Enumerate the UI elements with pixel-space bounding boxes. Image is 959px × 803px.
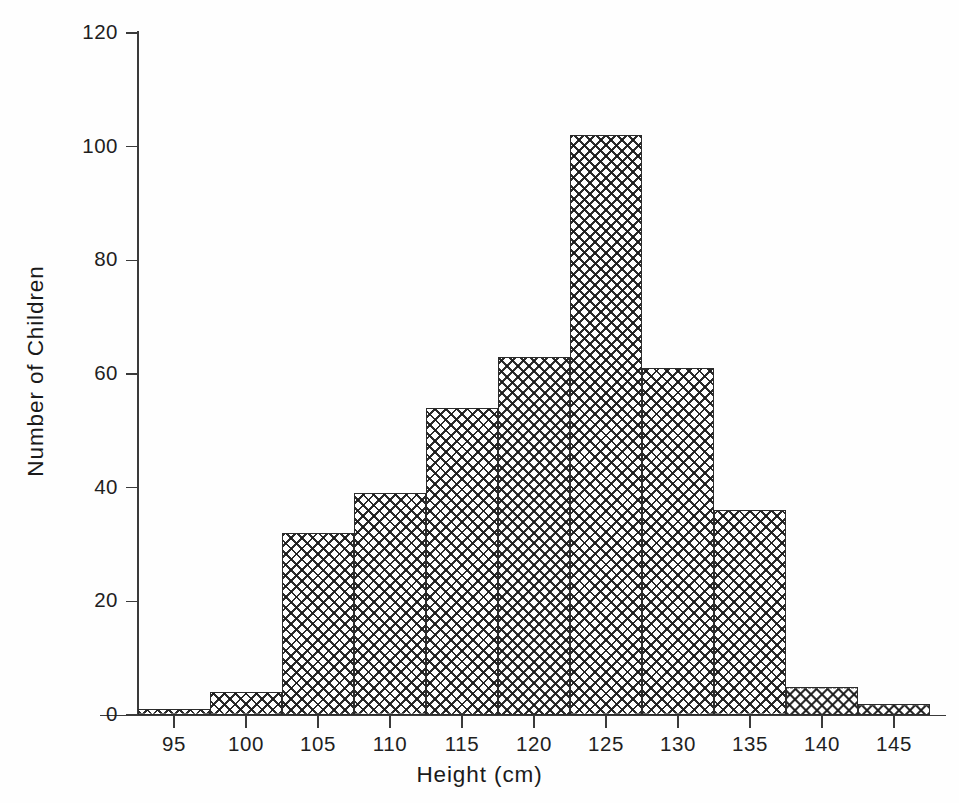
y-axis-tick-label-container: 120 [48,20,118,44]
histogram-bar [426,408,498,715]
y-axis-tick-label: 40 [58,475,118,499]
x-axis-tick-label-container: 130 [638,732,718,756]
y-axis-tick-label-container: 100 [48,134,118,158]
y-axis-tick [126,260,137,261]
x-axis-tick [677,716,678,728]
histogram-bar [498,357,570,715]
y-axis-tick-label: 20 [58,588,118,612]
y-axis-title: Number of Children [23,265,48,476]
x-axis-tick [461,716,462,728]
histogram-bar [210,692,282,715]
x-axis-tick-label: 120 [516,732,552,755]
x-axis-tick [893,716,894,728]
x-axis-tick-label-container: 125 [566,732,646,756]
x-axis-tick-label-container: 115 [422,732,502,756]
histogram-bar [786,687,858,715]
x-axis-tick-label: 145 [876,732,912,755]
x-axis-tick-label-container: 105 [278,732,358,756]
y-axis-tick [126,32,137,33]
plot-area [138,33,930,715]
x-axis-tick [749,716,750,728]
histogram-figure: 020406080100120 951001051101151201251301… [0,0,959,803]
y-axis-tick [126,146,137,147]
histogram-bar [858,704,930,715]
histogram-bar [282,533,354,715]
y-axis-tick-label-container: 20 [48,588,118,612]
histogram-bar [714,510,786,715]
x-axis-tick-label: 125 [588,732,624,755]
y-axis-tick [126,714,137,715]
y-axis-tick [126,487,137,488]
x-axis-tick-label: 140 [804,732,840,755]
x-axis-tick-label-container: 100 [206,732,286,756]
x-axis-tick [821,716,822,728]
y-axis-tick-label: 100 [58,134,118,158]
x-axis-tick-label: 130 [660,732,696,755]
x-axis-tick [389,716,390,728]
x-axis-tick-label: 95 [162,732,186,755]
x-axis-tick-label-container: 140 [782,732,862,756]
x-axis-tick-label-container: 145 [854,732,934,756]
x-axis-tick [605,716,606,728]
y-axis-tick-label: 0 [58,702,118,726]
y-axis-tick-label-container: 0 [48,702,118,726]
x-axis-tick-label-container: 110 [350,732,430,756]
x-axis-tick-label-container: 120 [494,732,574,756]
y-axis-tick [126,601,137,602]
x-axis-title: Height (cm) [0,762,959,788]
x-axis-tick [173,716,174,728]
x-axis-tick-label: 110 [373,732,407,755]
histogram-bar [138,709,210,715]
x-axis-tick-label-container: 135 [710,732,790,756]
x-axis-tick-label-container: 95 [134,732,214,756]
y-axis-tick-label-container: 60 [48,361,118,385]
x-axis-tick-label: 105 [300,732,336,755]
x-axis-tick-label: 135 [732,732,768,755]
y-axis-tick-label: 80 [58,247,118,271]
x-axis-tick [245,716,246,728]
y-axis-tick [126,373,137,374]
y-axis-tick-label: 120 [58,20,118,44]
y-axis-tick-label-container: 80 [48,247,118,271]
x-axis-tick-label: 115 [445,732,479,755]
x-axis-tick [317,716,318,728]
histogram-bar [354,493,426,715]
histogram-bar [642,368,714,715]
y-axis-tick-label: 60 [58,361,118,385]
x-axis-tick-label: 100 [228,732,264,755]
x-axis-tick [533,716,534,728]
histogram-bar [570,135,642,715]
y-axis-tick-label-container: 40 [48,475,118,499]
